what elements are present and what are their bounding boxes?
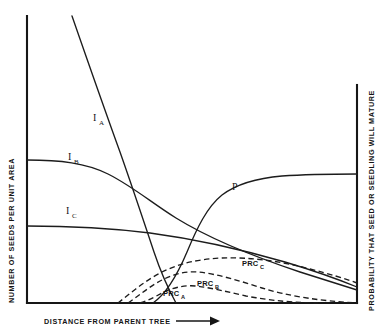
y-axis-right-label: PROBABILITY THAT SEED OR SEEDLING WILL M…	[367, 90, 376, 311]
right-arrow-icon	[176, 317, 220, 326]
label-prc-a-base: PRC	[163, 289, 180, 298]
label-ib-base: I	[68, 151, 71, 162]
seed-dispersal-recruitment-figure: I A I B I C P PRC A PRC B PRC C NUMBER O…	[0, 0, 384, 332]
label-ib: I B	[68, 151, 79, 166]
label-ia-sub: A	[99, 119, 104, 127]
curve-ib	[27, 160, 357, 290]
label-ia-base: I	[93, 112, 96, 123]
curve-ic	[27, 226, 357, 287]
x-axis-label: DISTANCE FROM PARENT TREE	[44, 317, 171, 326]
label-prc-c: PRC C	[242, 259, 264, 270]
label-prc-b-base: PRC	[197, 279, 214, 288]
label-prc-b-sub: B	[215, 284, 219, 290]
label-prc-c-sub: C	[260, 264, 264, 270]
label-ib-sub: B	[74, 158, 79, 166]
y-axis-left-label: NUMBER OF SEEDS PER UNIT AREA	[7, 158, 16, 303]
label-ic: I C	[66, 205, 77, 220]
label-p: P	[232, 181, 238, 192]
curve-ia	[72, 16, 176, 303]
label-prc-c-base: PRC	[242, 259, 259, 268]
label-ic-base: I	[66, 205, 69, 216]
label-ic-sub: C	[72, 212, 77, 220]
label-ia: I A	[93, 112, 104, 127]
curve-prc-b	[128, 272, 357, 303]
chart-svg: I A I B I C P PRC A PRC B PRC C NUMBER O…	[0, 0, 384, 332]
label-prc-a-sub: A	[181, 294, 185, 300]
